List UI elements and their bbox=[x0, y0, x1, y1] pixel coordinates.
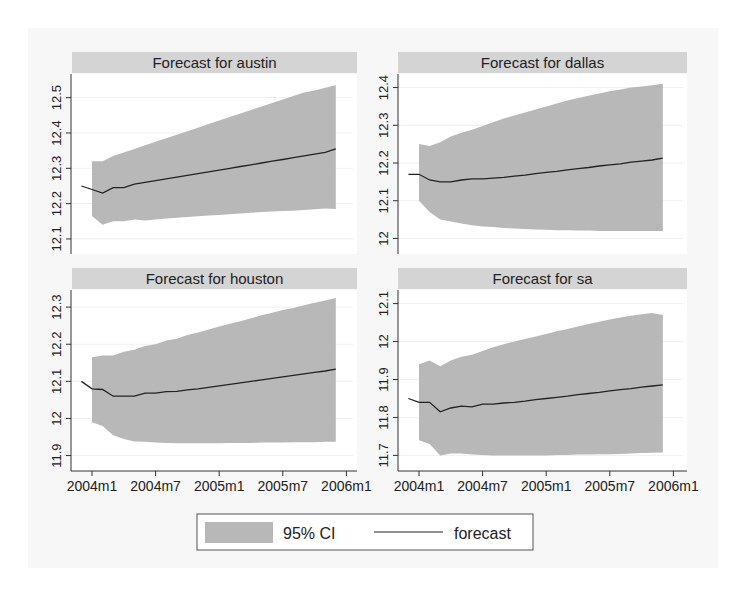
forecast-chart: Forecast for austin12.112.212.312.412.5F… bbox=[0, 0, 733, 593]
x-tick-label: 2005m7 bbox=[258, 478, 309, 494]
y-tick-label: 12 bbox=[376, 334, 391, 348]
x-tick-label: 2006m1 bbox=[321, 478, 372, 494]
y-tick-label: 12.2 bbox=[376, 150, 391, 175]
panel-title: Forecast for dallas bbox=[481, 54, 604, 71]
x-tick-label: 2005m7 bbox=[585, 478, 636, 494]
y-tick-label: 12.3 bbox=[49, 156, 64, 181]
y-tick-label: 11.8 bbox=[376, 405, 391, 429]
y-tick-label: 12.5 bbox=[49, 85, 64, 110]
x-tick-label: 2004m7 bbox=[457, 478, 508, 494]
y-tick-label: 12 bbox=[49, 411, 64, 425]
x-tick-label: 2005m1 bbox=[521, 478, 572, 494]
y-tick-label: 12.2 bbox=[49, 191, 64, 216]
y-tick-label: 12.1 bbox=[49, 369, 64, 394]
y-tick-label: 12.4 bbox=[49, 120, 64, 145]
y-tick-label: 11.9 bbox=[49, 443, 64, 467]
y-tick-label: 12.4 bbox=[376, 75, 391, 100]
panel-sa: Forecast for sa11.711.811.91212.12004m12… bbox=[376, 268, 699, 494]
legend-label-forecast: forecast bbox=[454, 525, 511, 542]
y-tick-label: 12.1 bbox=[376, 291, 391, 316]
x-tick-label: 2005m1 bbox=[194, 478, 245, 494]
y-tick-label: 12 bbox=[376, 231, 391, 245]
x-tick-label: 2004m1 bbox=[394, 478, 445, 494]
panel-austin: Forecast for austin12.112.212.312.412.5 bbox=[49, 52, 357, 254]
x-tick-label: 2004m7 bbox=[130, 478, 181, 494]
y-tick-label: 12.3 bbox=[376, 113, 391, 138]
panel-title: Forecast for sa bbox=[492, 270, 593, 287]
panel-houston: Forecast for houston11.91212.112.212.320… bbox=[49, 268, 372, 494]
ci-swatch bbox=[205, 522, 273, 543]
y-tick-label: 12.2 bbox=[49, 332, 64, 357]
panel-title: Forecast for austin bbox=[152, 54, 276, 71]
legend-label-ci: 95% CI bbox=[283, 525, 335, 542]
y-tick-label: 11.9 bbox=[376, 367, 391, 391]
panel-dallas: Forecast for dallas1212.112.212.312.4 bbox=[376, 52, 687, 254]
y-tick-label: 12.1 bbox=[376, 188, 391, 213]
x-tick-label: 2004m1 bbox=[67, 478, 118, 494]
y-tick-label: 12.3 bbox=[49, 294, 64, 319]
panel-title: Forecast for houston bbox=[146, 270, 284, 287]
y-tick-label: 11.7 bbox=[376, 443, 391, 467]
x-tick-label: 2006m1 bbox=[648, 478, 699, 494]
y-tick-label: 12.1 bbox=[49, 226, 64, 251]
legend: 95% CIforecast bbox=[197, 514, 533, 550]
